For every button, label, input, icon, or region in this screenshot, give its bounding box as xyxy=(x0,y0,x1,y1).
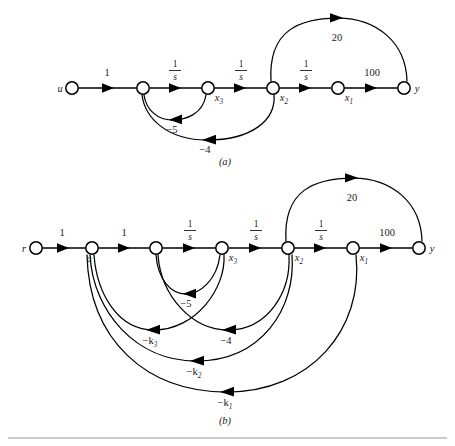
node-x2[interactable] xyxy=(282,242,294,254)
node-summing-junction[interactable] xyxy=(150,242,162,254)
node-label-x1: x1 xyxy=(344,92,353,106)
node-r[interactable] xyxy=(30,242,42,254)
graph-a: u x3 x2 x1 y 1 1 s 1 s xyxy=(57,13,419,168)
frac-numerator: 1 xyxy=(319,219,324,229)
gain-label-b-1-over-s-1: 1 s xyxy=(184,219,196,242)
node-x1[interactable] xyxy=(347,242,359,254)
graph-b-arc-20 xyxy=(286,173,422,241)
frac-denominator: s xyxy=(254,232,258,242)
node-label-x1: x1 xyxy=(359,252,368,266)
caption-b: (b) xyxy=(219,415,232,427)
graph-a-arc-minus4 xyxy=(142,95,274,145)
frac-numerator: 1 xyxy=(239,59,244,69)
node-label-u: u xyxy=(57,83,62,94)
gain-label-b-1-second: 1 xyxy=(121,227,126,238)
arrowhead-minus-k3 xyxy=(146,325,160,335)
node-label-u: u xyxy=(86,253,91,264)
node-label-x3: x3 xyxy=(228,252,238,266)
frac-denominator: s xyxy=(173,72,177,82)
node-x3[interactable] xyxy=(216,242,228,254)
frac-denominator: s xyxy=(304,72,308,82)
gain-label-a-1: 1 xyxy=(104,67,109,78)
signal-flow-graph-svg: u x3 x2 x1 y 1 1 s 1 s xyxy=(0,0,455,446)
frac-denominator: s xyxy=(319,232,323,242)
arrowhead-r-u xyxy=(57,243,69,253)
node-label-y: y xyxy=(429,243,435,254)
arrowhead-x1-y xyxy=(380,243,392,253)
frac-numerator: 1 xyxy=(188,219,193,229)
edge-x3-to-n3-gain-minus5 xyxy=(156,255,220,294)
gain-label-b-minus-k1: −k1 xyxy=(218,397,233,411)
frac-denominator: s xyxy=(239,72,243,82)
gain-label-b-1-first: 1 xyxy=(59,227,64,238)
arrowhead-x3-x2 xyxy=(249,243,261,253)
gain-label-a-1-over-s-3: 1 s xyxy=(300,59,312,82)
frac-numerator: 1 xyxy=(304,59,309,69)
gain-label-a-100: 100 xyxy=(364,67,380,78)
node-y[interactable] xyxy=(398,82,410,94)
arrowhead-20 xyxy=(345,173,358,182)
arrowhead-x2-x1 xyxy=(299,83,311,93)
edge-x3-to-n2-gain-minus5 xyxy=(144,95,206,120)
graph-b-arc-minus5 xyxy=(156,255,220,298)
node-label-r: r xyxy=(22,243,27,254)
arrowhead-u-n3 xyxy=(118,243,130,253)
gain-label-b-1-over-s-2: 1 s xyxy=(250,219,262,242)
arrowhead-x2-x1 xyxy=(314,243,326,253)
graph-b-gain-labels: 1 1 1 s 1 s 1 s 100 20 xyxy=(59,192,395,411)
edge-x2-to-y-gain20 xyxy=(286,178,422,241)
graph-b: r u x3 x2 x1 y 1 1 1 s 1 s xyxy=(22,173,435,427)
gain-label-b-minus4: −4 xyxy=(220,335,232,346)
node-u[interactable] xyxy=(66,82,78,94)
gain-label-a-20: 20 xyxy=(332,32,343,43)
figure-container: u x3 x2 x1 y 1 1 s 1 s xyxy=(0,0,455,446)
gain-label-a-minus4: −4 xyxy=(199,144,211,155)
gain-label-b-100: 100 xyxy=(379,227,395,238)
node-summing-junction[interactable] xyxy=(137,82,149,94)
arrowhead-x3-x2 xyxy=(234,83,246,93)
caption-a: (a) xyxy=(219,156,232,168)
gain-label-b-1-over-s-3: 1 s xyxy=(315,219,327,242)
gain-label-b-minus-k3: −k3 xyxy=(143,335,158,349)
frac-numerator: 1 xyxy=(173,59,178,69)
arrowhead-minus5 xyxy=(169,115,182,125)
frac-numerator: 1 xyxy=(254,219,259,229)
graph-a-arc-20 xyxy=(271,13,407,81)
node-x2[interactable] xyxy=(267,82,279,94)
arrowhead-n2-x3 xyxy=(169,83,181,93)
node-label-x2: x2 xyxy=(294,252,304,266)
gain-label-a-1-over-s-2: 1 s xyxy=(235,59,247,82)
node-label-x2: x2 xyxy=(279,92,289,106)
gain-label-a-minus5: −5 xyxy=(166,124,177,135)
arrowhead-minus-k1 xyxy=(220,387,234,397)
node-x1[interactable] xyxy=(332,82,344,94)
arrowhead-n3-x3 xyxy=(183,243,195,253)
gain-label-b-20: 20 xyxy=(347,192,358,203)
arrowhead-minus5 xyxy=(183,289,196,299)
arrowhead-minus4 xyxy=(222,325,236,335)
arrowhead-minus-k2 xyxy=(190,356,204,366)
edge-x2-to-y-gain20 xyxy=(271,18,407,81)
node-y[interactable] xyxy=(413,242,425,254)
arrowhead-u-n2 xyxy=(102,83,114,93)
edge-x2-to-n2-gain-minus4 xyxy=(142,95,274,140)
gain-label-b-minus-k2: −k2 xyxy=(187,366,202,380)
node-x3[interactable] xyxy=(202,82,214,94)
gain-label-b-minus5: −5 xyxy=(180,298,191,309)
node-label-x3: x3 xyxy=(214,92,224,106)
arrowhead-x1-y xyxy=(365,83,377,93)
node-label-y: y xyxy=(414,83,420,94)
gain-label-a-1-over-s-1: 1 s xyxy=(169,59,181,82)
frac-denominator: s xyxy=(188,232,192,242)
arrowhead-20 xyxy=(330,13,343,22)
